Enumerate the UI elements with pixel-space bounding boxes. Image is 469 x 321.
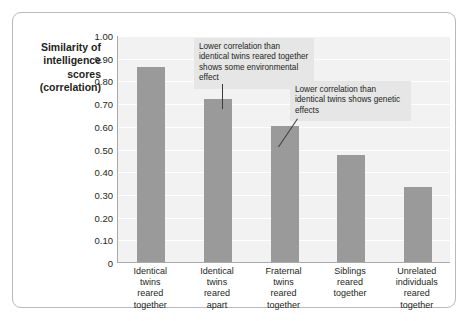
annotation-line: identical twins reared (199, 52, 276, 61)
x-axis-category-label-line: Identical (184, 266, 251, 277)
x-axis-category-label-line: Siblings (317, 266, 384, 277)
x-axis-category-label-line: reared (317, 277, 384, 288)
x-axis-category-label: Siblingsrearedtogether (317, 266, 384, 300)
x-axis-category-label-line: individuals (383, 277, 450, 288)
x-axis-category-label-line: reared (250, 288, 317, 299)
x-axis-category-label: Identicaltwinsrearedtogether (117, 266, 184, 311)
x-axis-category-label-line: reared (184, 288, 251, 299)
y-axis-tick-label: 0.70 (85, 99, 113, 110)
chart-figure: Similarity of intelligence scores (corre… (12, 12, 456, 308)
y-axis-tick-label: 0.90 (85, 53, 113, 64)
x-axis-category-label-line: twins (184, 277, 251, 288)
y-axis-tick-labels: 1.000.900.800.700.600.500.400.300.200.10… (85, 36, 113, 253)
y-axis-tick-label: 0.80 (85, 76, 113, 87)
bar (271, 126, 299, 262)
x-axis-category-label-line: Identical (117, 266, 184, 277)
y-axis-tick-label: 0.50 (85, 144, 113, 155)
y-axis-tick-label: 1.00 (85, 31, 113, 42)
x-axis-category-label-line: reared (117, 288, 184, 299)
annotation-line: Lower correlation than (199, 42, 280, 51)
annotation-leader-line (222, 84, 223, 109)
annotation-line: identical twins shows (295, 95, 371, 104)
bar (137, 67, 165, 262)
x-axis-category-label-line: together (383, 300, 450, 311)
y-axis-tick-label: 0.40 (85, 167, 113, 178)
x-axis-category-label: Fraternaltwinsrearedtogether (250, 266, 317, 311)
x-axis-category-label: Unrelatedindividualsrearedtogether (383, 266, 450, 311)
y-axis-tick-label: 0.20 (85, 212, 113, 223)
x-axis-category-label-line: together (317, 288, 384, 299)
x-axis-category-label-line: twins (250, 277, 317, 288)
bar (404, 187, 432, 262)
y-axis-tick-label: 0.30 (85, 189, 113, 200)
y-axis-tick-label: 0.10 (85, 235, 113, 246)
y-axis-tick-label: 0 (85, 258, 113, 269)
x-axis-category-label-line: reared (383, 288, 450, 299)
gridline (118, 36, 450, 37)
x-axis-category-labels: IdenticaltwinsrearedtogetherIdenticaltwi… (117, 266, 450, 312)
annotation-genetic-effects: Lower correlation than identical twins s… (290, 81, 411, 121)
x-axis-category-label-line: together (117, 300, 184, 311)
x-axis-category-label: Identicaltwinsrearedapart (184, 266, 251, 311)
x-axis-category-label-line: Fraternal (250, 266, 317, 277)
x-axis-category-label-line: apart (184, 300, 251, 311)
x-axis-category-label-line: Unrelated (383, 266, 450, 277)
x-axis-category-label-line: together (250, 300, 317, 311)
y-axis-tick-label: 0.60 (85, 121, 113, 132)
bar (337, 155, 365, 262)
bar (204, 99, 232, 262)
x-axis-category-label-line: twins (117, 277, 184, 288)
plot-area: Lower correlation than identical twins r… (117, 36, 450, 263)
annotation-line: Lower correlation than (295, 85, 376, 94)
